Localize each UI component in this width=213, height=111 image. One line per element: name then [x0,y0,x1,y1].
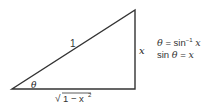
sin-function: sin [157,49,169,60]
equals-sign: = [180,49,186,60]
theta-symbol: θ [172,49,178,60]
theta-symbol: θ [157,37,163,48]
opposite-label: x [139,45,145,56]
sin-function: sin [174,37,186,48]
adjacent-label: √ 1 − x 2 [55,92,92,104]
equals-sign: = [165,37,171,48]
radical-sign: √ [55,93,61,104]
equation-sine: sin θ = x [157,49,194,60]
exponent: 2 [88,92,92,98]
x-variable: x [195,37,200,48]
right-triangle [12,10,135,89]
equation-inverse-sine: θ = sin−1 x [157,37,201,48]
inverse-superscript: −1 [186,37,193,43]
hypotenuse-label: 1 [70,38,76,49]
x-variable: x [188,49,193,60]
angle-label: θ [31,80,37,90]
radicand: 1 − x [63,93,84,104]
